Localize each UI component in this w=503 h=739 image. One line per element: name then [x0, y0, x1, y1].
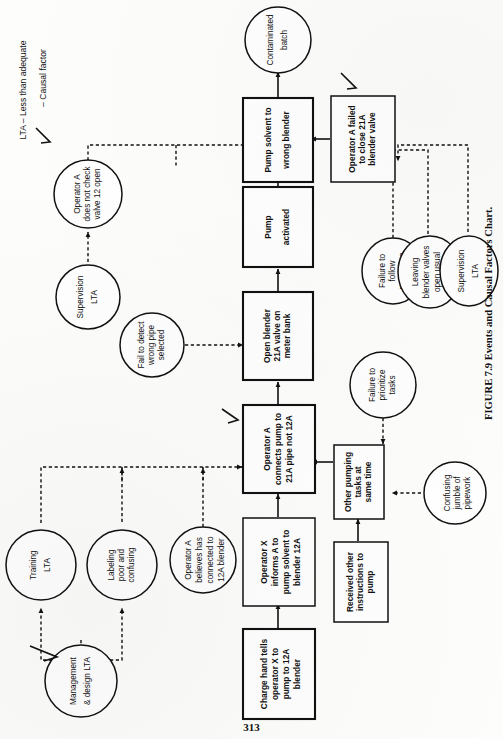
legend: LTA – Less than adequate – Causal factor — [18, 40, 50, 143]
events-causal-factors-chart: Pump solvent to wrong blender Pump activ… — [0, 0, 503, 739]
causal-label-line: jumble of — [453, 476, 462, 511]
causal-label-line: poor and — [117, 548, 126, 581]
event-box-s1[interactable]: Received other instructions to pump — [334, 542, 388, 622]
figure-caption: FIGURE 7.9 Events and Causal Factors Cha… — [483, 207, 494, 420]
edge-c12-s3 — [398, 145, 468, 232]
causal-label-line: prioritize — [378, 369, 387, 400]
causal-circle-c5[interactable]: Confusing jumble of pipework — [424, 462, 486, 524]
scanned-page: Pump solvent to wrong blender Pump activ… — [0, 0, 503, 739]
causal-label-line: LTA — [43, 558, 52, 572]
causal-label-line: pipework — [463, 476, 472, 510]
event-label-line: wrong blender — [281, 110, 291, 169]
causal-circle-c1[interactable]: Management & design LTA — [30, 645, 117, 717]
causal-circle-c2[interactable]: Training LTA — [6, 530, 76, 600]
causal-circle-c8[interactable]: Supervision LTA — [56, 265, 120, 329]
causal-label-line: Labeling — [107, 549, 116, 580]
causal-label-line: Management — [69, 656, 78, 705]
event-label-line: instructions to — [355, 553, 365, 611]
event-label-line: Received other — [345, 551, 355, 612]
causal-label-line: Leaving — [411, 257, 420, 286]
causal-label-line: Failure to — [368, 367, 377, 402]
outcome-label-line: Contaminated — [266, 14, 275, 65]
causal-circle-c7[interactable]: Fail to detect wrong pipe selected — [120, 313, 184, 377]
causal-factor-mark-e3 — [222, 409, 238, 423]
event-label-line: blender 12A — [292, 538, 302, 586]
causal-circle-c9[interactable]: Operator A does not check valve 12 open — [54, 160, 122, 228]
event-label-line: Charge hand tells — [259, 639, 269, 710]
event-label-line: Pump solvent to — [263, 107, 273, 172]
event-label-line: Operator X — [259, 540, 269, 584]
causal-label-line: believes has — [195, 537, 204, 583]
event-box-e5[interactable]: Pump activated — [243, 187, 313, 267]
event-box-s2[interactable]: Other pumping tasks at same time — [334, 445, 384, 519]
causal-label-line: Fail to detect — [137, 321, 146, 369]
event-label-line: Other pumping — [343, 452, 353, 512]
edge-c9-e6 — [88, 145, 244, 172]
causal-circle-c4[interactable]: Operator A believes has connected to 12A… — [170, 527, 236, 593]
causal-label-line: tasks — [388, 375, 397, 394]
causal-label-line: Operator A — [73, 174, 82, 214]
legend-causal-text: – Causal factor — [38, 49, 48, 107]
event-label-line: tasks at — [353, 466, 363, 497]
causal-factor-mark-c1 — [30, 646, 57, 661]
page-number: 313 — [0, 721, 503, 733]
legend-lta-text: LTA – Less than adequate — [18, 40, 28, 139]
causal-label-line: confusing — [127, 547, 136, 582]
event-label-line: Operator A — [262, 427, 272, 470]
event-box-s3[interactable]: Operator A failed to close 21A blender v… — [331, 73, 395, 182]
causal-label-line: Confusing — [443, 474, 452, 511]
event-box-e3[interactable]: Operator A connects pump to 21A pipe not… — [222, 405, 315, 493]
causal-label-line: blender valves — [422, 246, 431, 299]
causal-circle-c3[interactable]: Labeling poor and confusing — [87, 530, 157, 600]
event-label-line: pump — [365, 571, 375, 594]
causal-label-line: LTA — [90, 290, 99, 304]
causal-label-line: wrong pipe — [147, 325, 156, 367]
event-label-line: Open blender — [262, 308, 272, 363]
causal-circle-c6[interactable]: Failure to prioritize tasks — [350, 352, 416, 418]
causal-label-line: valve 12 open — [93, 168, 102, 219]
event-box-e6[interactable]: Pump solvent to wrong blender — [243, 98, 313, 182]
causal-label-line: Training — [29, 550, 38, 580]
causal-label-line: Failure to — [378, 253, 387, 288]
edge-c2-e3 — [41, 467, 242, 523]
causal-label-line: & design LTA — [83, 656, 92, 704]
causal-label-line: LTA — [471, 264, 480, 278]
event-label-line: informs A to — [270, 538, 280, 587]
event-label-line: 21A pipe not 12A — [284, 415, 294, 483]
event-label-line: blender — [292, 658, 302, 689]
causal-label-line: does not check — [83, 166, 92, 222]
event-label-line: Pump — [263, 215, 273, 238]
outcome-label-line: batch — [280, 30, 289, 50]
event-label-line: 21A valve on — [272, 311, 282, 362]
primary-events: Pump solvent to wrong blender Pump activ… — [222, 98, 315, 719]
event-label-line: activated — [281, 209, 291, 245]
event-label-line: operator X to — [270, 648, 280, 700]
event-label-line: pump solvent to — [281, 530, 291, 595]
causal-label-line: Operator A — [184, 540, 193, 580]
causal-label-line: follow — [388, 260, 397, 281]
check-mark-icon — [36, 128, 50, 143]
causal-label-line: connected to — [206, 536, 215, 583]
event-label-line: meter bank — [282, 313, 292, 358]
causal-label-line: Supervision — [76, 275, 85, 318]
event-box-e4[interactable]: Open blender 21A valve on meter bank — [243, 292, 313, 380]
event-label-line: Operator A failed — [347, 105, 357, 172]
event-box-e1[interactable]: Charge hand tells operator X to pump to … — [243, 629, 315, 719]
figure-caption-text: FIGURE 7.9 Events and Causal Factors Cha… — [483, 207, 494, 420]
event-label-line: to close 21A — [357, 114, 367, 163]
causal-label-line: 12A blender — [217, 538, 226, 582]
event-label-line: blender valve — [367, 112, 377, 166]
secondary-events: Operator A failed to close 21A blender v… — [331, 73, 395, 622]
event-box-e2[interactable]: Operator X informs A to pump solvent to … — [243, 518, 315, 606]
event-label-line: same time — [363, 461, 373, 502]
causal-factor-mark-s3 — [341, 73, 356, 89]
outcome-circle[interactable]: Contaminated batch — [245, 7, 311, 73]
causal-label-line: selected — [157, 329, 166, 360]
causal-label-line: Supervision — [457, 249, 466, 292]
event-label-line: pump to 12A — [281, 649, 291, 700]
event-label-line: connects pump to — [273, 413, 283, 485]
